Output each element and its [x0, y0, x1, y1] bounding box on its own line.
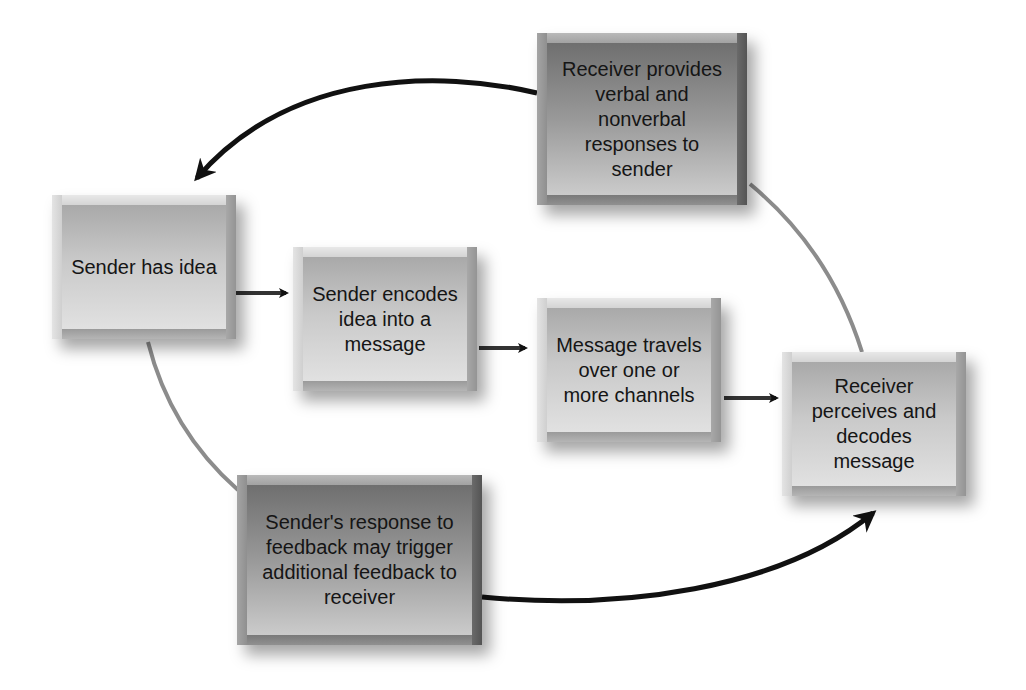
node-label: Sender's response to feedback may trigge… — [247, 510, 472, 610]
connectors-layer — [0, 0, 1026, 690]
node-label: Receiver perceives and decodes message — [792, 374, 956, 474]
arrow-response-to-receiver — [482, 513, 873, 601]
node-message-travels: Message travels over one or more channel… — [537, 298, 721, 442]
node-label: Sender has idea — [65, 255, 223, 280]
node-receiver-feedback: Receiver provides verbal and nonverbal r… — [537, 33, 747, 205]
connector-decodes-to-feedback — [750, 184, 862, 352]
node-label: Receiver provides verbal and nonverbal r… — [547, 57, 737, 182]
connector-sender-to-response — [148, 342, 238, 490]
node-sender-encodes: Sender encodes idea into a message — [293, 247, 477, 391]
node-label: Sender encodes idea into a message — [303, 282, 467, 357]
node-label: Message travels over one or more channel… — [547, 333, 711, 408]
communication-process-diagram: Sender has idea Sender encodes idea into… — [0, 0, 1026, 690]
node-receiver-decodes: Receiver perceives and decodes message — [782, 352, 966, 496]
node-sender-has-idea: Sender has idea — [52, 195, 236, 339]
arrow-feedback-to-sender — [197, 81, 537, 178]
node-sender-response: Sender's response to feedback may trigge… — [237, 475, 482, 645]
